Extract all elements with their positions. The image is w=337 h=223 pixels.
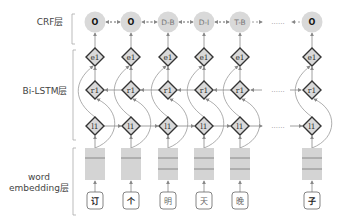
input-char: 个 bbox=[126, 196, 136, 206]
bilstm-crf-diagram: ..................Oe1r1l1订Oe1r1l1个D-Be1r… bbox=[0, 0, 337, 223]
emission-node-label: e1 bbox=[199, 53, 208, 62]
emission-node-label: e1 bbox=[90, 53, 99, 62]
emission-node-label: e1 bbox=[163, 53, 172, 62]
forward-lstm-node-label: l1 bbox=[200, 122, 207, 131]
layer-bracket bbox=[73, 50, 76, 140]
input-char: 晚 bbox=[236, 196, 244, 206]
input-char: 明 bbox=[164, 197, 172, 206]
emission-node-label: e1 bbox=[307, 53, 316, 62]
forward-lstm-node-label: l1 bbox=[127, 122, 134, 131]
backward-ellipsis: ...... bbox=[271, 86, 284, 94]
embedding-vector bbox=[121, 148, 141, 180]
embedding-vector bbox=[302, 148, 322, 180]
crf-ellipsis: ...... bbox=[271, 18, 284, 26]
backward-lstm-node-label: r1 bbox=[164, 86, 172, 95]
forward-lstm-node-label: l1 bbox=[164, 122, 171, 131]
embedding-vector bbox=[85, 148, 105, 180]
forward-lstm-node-label: l1 bbox=[91, 122, 98, 131]
backward-lstm-node-label: r1 bbox=[308, 86, 316, 95]
input-char: 天 bbox=[200, 197, 208, 206]
backward-lstm-node-label: r1 bbox=[236, 86, 244, 95]
embedding-vector bbox=[158, 148, 178, 180]
emission-node-label: e1 bbox=[235, 53, 244, 62]
forward-lstm-node-label: l1 bbox=[308, 122, 315, 131]
forward-lstm-node-label: l1 bbox=[236, 122, 243, 131]
embedding-vector bbox=[194, 148, 214, 180]
crf-tag-label: O bbox=[309, 18, 316, 27]
layer-bracket bbox=[72, 14, 75, 44]
backward-lstm-node-label: r1 bbox=[200, 86, 208, 95]
forward-ellipsis: ...... bbox=[271, 122, 284, 130]
emission-node-label: e1 bbox=[126, 53, 135, 62]
crf-tag-label: O bbox=[92, 18, 99, 27]
crf-tag-label: D-I bbox=[199, 18, 210, 27]
crf-tag-label: T-B bbox=[233, 18, 245, 27]
crf-tag-label: O bbox=[128, 18, 135, 27]
crf-tag-label: D-B bbox=[161, 18, 174, 27]
backward-lstm-node-label: r1 bbox=[127, 86, 135, 95]
layer-bracket bbox=[73, 148, 76, 215]
input-char: 订 bbox=[91, 196, 99, 206]
input-char: 子 bbox=[308, 197, 316, 206]
backward-lstm-node-label: r1 bbox=[91, 86, 99, 95]
embedding-vector bbox=[230, 148, 250, 180]
